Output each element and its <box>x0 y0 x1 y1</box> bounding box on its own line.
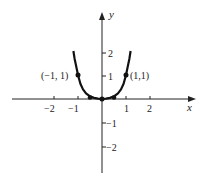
y-tick-label: −1 <box>106 118 117 129</box>
x-tick-label: 2 <box>147 103 152 114</box>
y-tick-label: 1 <box>108 71 113 82</box>
point-label-left: (−1, 1) <box>41 70 68 82</box>
point-label-right: (1,1) <box>130 70 149 82</box>
y-axis-label: y <box>108 8 114 20</box>
x-axis-label: x <box>186 101 192 113</box>
x-tick-label: 1 <box>124 103 129 114</box>
graph-canvas: −2 −1 1 2 2 1 −1 −2 x y (−1, 1) (1,1) <box>0 0 202 177</box>
x-tick-label: −1 <box>68 103 79 114</box>
y-axis-arrow-icon <box>99 12 105 20</box>
y-tick-label: 2 <box>108 48 113 59</box>
x-tick-label: −2 <box>44 103 55 114</box>
y-tick-label: −2 <box>106 142 117 153</box>
